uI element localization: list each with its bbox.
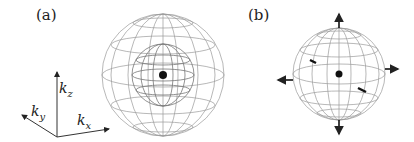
center-dot-a (159, 71, 167, 79)
diagram-graphics (0, 0, 414, 142)
figure: (a) (b) kz ky kx (0, 0, 414, 142)
center-dot-b (336, 71, 343, 78)
axes-triad (22, 72, 109, 137)
